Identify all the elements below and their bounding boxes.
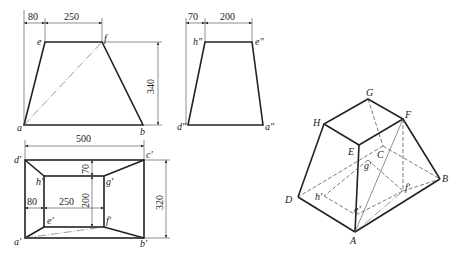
dim-front-height: 340 (145, 79, 156, 94)
label-f: f (104, 33, 108, 44)
label-G: G (366, 87, 373, 98)
label-h2: h" (193, 36, 203, 47)
dim-top-inner-offset: 70 (80, 164, 91, 174)
dim-top-inner-width: 250 (59, 196, 74, 207)
label-A: A (349, 235, 357, 246)
label-f: f' (405, 182, 411, 193)
dim-top-depth: 320 (154, 195, 165, 210)
label-C: C (377, 149, 384, 160)
dim-side-top: 200 (220, 11, 235, 22)
label-e: e (37, 36, 42, 47)
dim-front-top: 250 (64, 11, 79, 22)
dim-top-left: 80 (27, 196, 37, 207)
dim-front-left: 80 (28, 11, 38, 22)
label-d1: d' (14, 154, 22, 165)
label-e1: e' (47, 215, 54, 226)
label-e2: e" (255, 36, 264, 47)
label-g: g' (364, 160, 372, 171)
label-E: E (347, 146, 354, 157)
label-H: H (312, 117, 321, 128)
label-a1: a' (14, 236, 22, 247)
front-view (24, 10, 162, 125)
label-D: D (284, 194, 293, 205)
dim-top-inner-depth: 200 (80, 193, 91, 208)
label-h: h' (315, 191, 323, 202)
label-h1: h' (36, 176, 44, 187)
dim-top-width: 500 (76, 133, 91, 144)
label-f1: f' (106, 215, 112, 226)
label-d2: d" (177, 121, 187, 132)
label-c1: c' (146, 149, 153, 160)
label-b: b (140, 126, 145, 137)
side-view (186, 18, 263, 125)
dim-side-left: 70 (188, 11, 198, 22)
label-g1: g' (106, 176, 114, 187)
label-b1: b' (140, 238, 148, 249)
label-F: F (404, 109, 412, 120)
projection-drawing: 80 250 340 a b e f 70 200 d" a" h" e" 5 (0, 0, 459, 261)
label-e: e' (354, 204, 361, 215)
label-B: B (442, 173, 448, 184)
label-a2: a" (265, 121, 275, 132)
label-a: a (17, 122, 22, 133)
